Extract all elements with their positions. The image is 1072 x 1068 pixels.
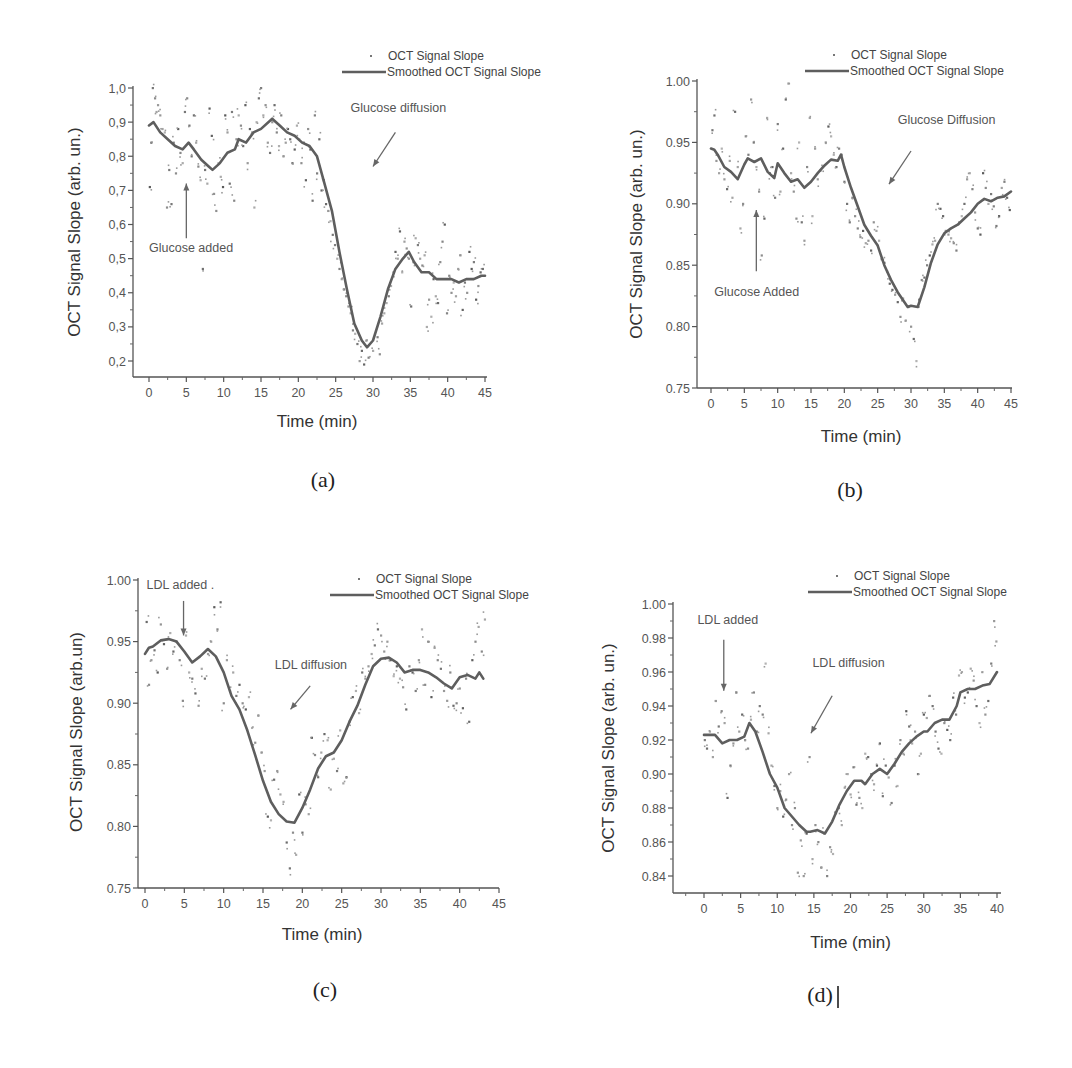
data-point xyxy=(399,678,401,680)
data-point xyxy=(377,623,379,625)
legend-label-smoothed: Smoothed OCT Signal Slope xyxy=(850,64,1004,78)
data-point xyxy=(984,714,986,716)
annotation: Glucose added xyxy=(149,184,233,255)
data-point xyxy=(242,702,244,704)
data-point xyxy=(811,215,813,217)
data-point xyxy=(300,162,302,164)
data-point xyxy=(704,745,706,747)
annotation: LDL added . xyxy=(147,578,215,636)
data-point xyxy=(861,237,863,239)
data-point xyxy=(952,697,954,699)
data-point xyxy=(966,176,968,178)
data-point xyxy=(362,668,364,670)
data-point xyxy=(934,735,936,737)
annotation: Glucose Added xyxy=(714,210,799,299)
data-point xyxy=(284,138,286,140)
data-point xyxy=(367,665,369,667)
data-point xyxy=(962,209,964,211)
legend-label-oct-signal-slope: OCT Signal Slope xyxy=(376,572,472,586)
x-tick-label: 40 xyxy=(441,386,455,400)
data-point xyxy=(298,122,300,124)
data-point xyxy=(356,343,358,345)
data-point xyxy=(359,360,361,362)
data-point xyxy=(726,188,728,190)
data-point xyxy=(973,675,975,677)
data-point xyxy=(153,649,155,651)
data-point xyxy=(157,671,159,673)
data-point xyxy=(965,196,967,198)
data-point xyxy=(310,737,312,739)
data-point xyxy=(891,802,893,804)
data-point xyxy=(964,697,966,699)
data-point xyxy=(956,244,958,246)
data-point xyxy=(759,705,761,707)
x-tick-label: 30 xyxy=(374,897,388,911)
data-point xyxy=(779,191,781,193)
data-point xyxy=(777,129,779,131)
legend-dot-icon xyxy=(370,55,372,57)
data-point xyxy=(739,227,741,229)
annotation-label: Glucose added xyxy=(149,241,233,255)
data-point xyxy=(939,751,941,753)
y-tick-label: 0.75 xyxy=(666,382,690,396)
data-point xyxy=(758,711,760,713)
x-tick-label: 25 xyxy=(329,386,343,400)
data-point xyxy=(385,302,387,304)
data-point xyxy=(841,820,843,822)
data-point xyxy=(982,172,984,174)
data-point xyxy=(946,729,948,731)
data-point xyxy=(333,248,335,250)
data-point xyxy=(381,641,383,643)
data-point xyxy=(377,628,379,630)
data-point xyxy=(483,611,485,613)
data-point xyxy=(233,200,235,202)
data-point xyxy=(449,665,451,667)
data-point xyxy=(437,659,439,661)
x-tick-label: 0 xyxy=(146,386,153,400)
data-point xyxy=(971,670,973,672)
data-point xyxy=(352,329,354,331)
data-point xyxy=(380,634,382,636)
y-axis-ticks: 0.750.800.850.900.951.00 xyxy=(666,75,697,396)
data-point xyxy=(397,258,399,260)
data-point xyxy=(850,797,852,799)
data-point xyxy=(798,141,800,143)
data-point xyxy=(160,623,162,625)
data-point xyxy=(379,353,381,355)
data-point xyxy=(803,240,805,242)
data-point xyxy=(767,119,769,121)
data-point xyxy=(418,252,420,254)
data-point xyxy=(323,740,325,742)
data-point xyxy=(194,688,196,690)
data-point xyxy=(418,659,420,661)
data-point xyxy=(794,807,796,809)
data-point xyxy=(932,705,934,707)
data-point xyxy=(253,206,255,208)
annotation-label: LDL diffusion xyxy=(812,656,884,670)
y-tick-label: 0.88 xyxy=(642,802,666,816)
data-point xyxy=(271,780,273,782)
data-point xyxy=(924,712,926,714)
data-point xyxy=(188,126,190,128)
data-point xyxy=(743,715,745,717)
data-point xyxy=(717,732,719,734)
data-point xyxy=(381,320,383,322)
data-point xyxy=(905,710,907,712)
x-tick-label: 5 xyxy=(181,897,188,911)
data-point xyxy=(320,758,322,760)
data-point xyxy=(292,163,294,165)
caption-a: (a) xyxy=(311,467,335,492)
y-axis-ticks: 0.840.860.880.900.920.940.960.981.00 xyxy=(642,598,673,884)
data-point xyxy=(197,163,199,165)
data-point xyxy=(441,661,443,663)
x-tick-label: 15 xyxy=(254,386,268,400)
data-point xyxy=(360,346,362,348)
data-point xyxy=(273,116,275,118)
data-point xyxy=(910,724,912,726)
data-point xyxy=(833,152,835,154)
y-tick-label: 0.90 xyxy=(107,697,131,711)
caption-b: (b) xyxy=(837,477,863,502)
data-point xyxy=(981,671,983,673)
data-point xyxy=(422,636,424,638)
y-tick-label: 0.90 xyxy=(642,768,666,782)
